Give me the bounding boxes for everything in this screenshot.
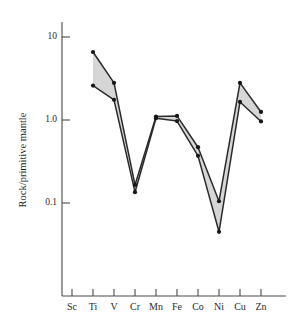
data-point-ni-upper [217, 199, 221, 203]
x-tick-group: Sc Ti V Cr Mn Fe Co Ni Cu Zn [67, 289, 267, 312]
data-point-co-lower [196, 154, 200, 158]
data-point-cr-lower [133, 190, 137, 194]
x-tick-label-sc: Sc [67, 301, 78, 312]
data-point-ni-lower [217, 230, 221, 234]
data-point-zn-upper [259, 110, 263, 114]
x-tick-label-cu: Cu [234, 301, 246, 312]
data-point-v-upper [112, 81, 116, 85]
data-point-cu-upper [238, 81, 242, 85]
data-point-cr-upper [133, 183, 137, 187]
data-point-cu-lower [238, 100, 242, 104]
spider-diagram-figure: 10 1.0 0.1 Rock/primitive mantle Sc Ti V… [0, 0, 292, 329]
chart-canvas: 10 1.0 0.1 Rock/primitive mantle Sc Ti V… [0, 0, 292, 329]
x-tick-label-v: V [110, 301, 118, 312]
data-point-zn-lower [259, 119, 263, 123]
y-tick-label-1: 1.0 [45, 114, 57, 124]
data-point-ti-lower [91, 83, 95, 87]
y-axis-title: Rock/primitive mantle [17, 112, 28, 207]
x-tick-label-cr: Cr [130, 301, 141, 312]
x-tick-label-zn: Zn [255, 301, 266, 312]
data-point-fe-upper [175, 114, 179, 118]
data-point-ti-upper [91, 50, 95, 54]
y-tick-group: 10 1.0 0.1 [45, 31, 70, 207]
data-point-co-upper [196, 145, 200, 149]
data-point-markers [91, 50, 263, 234]
x-tick-label-fe: Fe [172, 301, 183, 312]
y-tick-label-10: 10 [48, 31, 58, 41]
x-tick-label-co: Co [192, 301, 204, 312]
x-tick-label-mn: Mn [149, 301, 163, 312]
data-point-fe-lower [175, 119, 179, 123]
x-tick-label-ni: Ni [214, 301, 224, 312]
x-tick-label-ti: Ti [89, 301, 98, 312]
data-point-mn-lower [154, 116, 158, 120]
data-point-v-lower [112, 98, 116, 102]
y-tick-label-0-1: 0.1 [45, 197, 57, 207]
data-band-area [93, 52, 261, 232]
